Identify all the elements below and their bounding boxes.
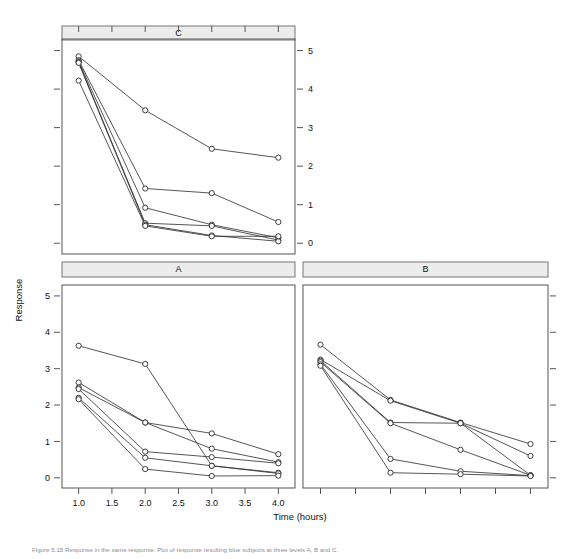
- data-point-b-4-1: [388, 421, 393, 426]
- data-point-b-6-3: [528, 473, 533, 478]
- series-line-b-6: [321, 366, 531, 476]
- series-line-b-5: [321, 364, 531, 475]
- panel-b: B: [303, 262, 556, 494]
- x-tick-label-3: 2.5: [172, 498, 185, 508]
- data-point-b-4-2: [458, 447, 463, 452]
- data-point-b-6-2: [458, 472, 463, 477]
- y-tick-label-c-1: 1: [308, 200, 313, 210]
- figure-caption: Figure 5.15 Response in the same respons…: [32, 545, 552, 554]
- x-tick-label-6: 4.0: [272, 498, 285, 508]
- y-tick-label-c-3: 3: [308, 123, 313, 133]
- x-axis-title: Time (hours): [273, 511, 327, 522]
- y-tick-label-a-4: 4: [45, 327, 50, 337]
- panel-a: A1.01.52.02.53.03.54.0012345: [45, 262, 295, 508]
- x-tick-label-2: 2.0: [139, 498, 152, 508]
- series-line-a-2: [79, 382, 279, 454]
- data-point-c-2-3: [276, 219, 281, 224]
- data-point-c-2-1: [143, 186, 148, 191]
- plot-canvas: C012345A1.01.52.02.53.03.54.0012345BResp…: [0, 0, 563, 559]
- data-point-b-6-0: [318, 363, 323, 368]
- data-point-b-2-1: [388, 398, 393, 403]
- series-line-a-1: [79, 346, 279, 473]
- y-tick-label-a-0: 0: [45, 473, 50, 483]
- data-point-c-6-0: [76, 78, 81, 83]
- data-point-a-3-1: [143, 420, 148, 425]
- y-tick-label-c-4: 4: [308, 84, 313, 94]
- data-point-a-1-1: [143, 361, 148, 366]
- series-line-c-5: [79, 63, 279, 241]
- strip-label-a: A: [175, 264, 181, 274]
- data-point-c-6-2: [209, 234, 214, 239]
- series-line-b-1: [321, 345, 531, 444]
- y-tick-label-c-0: 0: [308, 238, 313, 248]
- series-line-c-1: [79, 56, 279, 157]
- series-line-c-2: [79, 60, 279, 222]
- data-point-b-2-3: [528, 453, 533, 458]
- series-line-c-4: [79, 62, 279, 240]
- data-point-c-6-1: [143, 223, 148, 228]
- y-tick-label-a-1: 1: [45, 437, 50, 447]
- data-point-c-5-3: [276, 239, 281, 244]
- data-point-c-2-2: [209, 191, 214, 196]
- data-point-b-1-3: [528, 441, 533, 446]
- data-point-a-6-3: [276, 473, 281, 478]
- data-point-c-3-1: [143, 205, 148, 210]
- data-point-b-3-2: [458, 421, 463, 426]
- y-tick-label-c-5: 5: [308, 46, 313, 56]
- series-line-a-6: [79, 399, 279, 476]
- data-point-c-5-0: [76, 60, 81, 65]
- series-line-b-4: [321, 362, 531, 475]
- panel-c: C012345: [54, 26, 313, 254]
- data-point-a-4-1: [143, 449, 148, 454]
- y-tick-label-a-3: 3: [45, 364, 50, 374]
- data-point-c-6-3: [276, 234, 281, 239]
- panel-frame-a: [62, 285, 295, 488]
- data-point-a-6-2: [209, 473, 214, 478]
- data-point-b-1-0: [318, 342, 323, 347]
- series-line-c-6: [79, 81, 279, 237]
- x-tick-label-1: 1.5: [106, 498, 119, 508]
- x-tick-label-0: 1.0: [72, 498, 85, 508]
- data-point-c-1-3: [276, 155, 281, 160]
- series-line-b-2: [321, 360, 531, 456]
- data-point-a-2-2: [209, 431, 214, 436]
- strip-label-b: B: [422, 264, 428, 274]
- data-point-a-1-0: [76, 343, 81, 348]
- series-line-c-3: [79, 61, 279, 237]
- data-point-a-6-1: [143, 466, 148, 471]
- data-point-c-4-2: [209, 223, 214, 228]
- data-point-b-6-1: [388, 470, 393, 475]
- y-axis-title: Response: [13, 279, 24, 322]
- data-point-a-5-2: [209, 463, 214, 468]
- data-point-b-5-1: [388, 456, 393, 461]
- panel-frame-b: [303, 285, 548, 488]
- data-point-a-4-0: [76, 386, 81, 391]
- y-tick-label-a-5: 5: [45, 291, 50, 301]
- y-tick-label-a-2: 2: [45, 400, 50, 410]
- x-tick-label-4: 3.0: [206, 498, 219, 508]
- data-point-c-1-1: [143, 108, 148, 113]
- trellis-figure: C012345A1.01.52.02.53.03.54.0012345BResp…: [0, 0, 563, 559]
- data-point-a-6-0: [76, 397, 81, 402]
- data-point-a-4-2: [209, 454, 214, 459]
- data-point-a-2-0: [76, 380, 81, 385]
- data-point-a-5-1: [143, 455, 148, 460]
- data-point-a-3-2: [209, 446, 214, 451]
- y-tick-label-c-2: 2: [308, 161, 313, 171]
- data-point-a-2-3: [276, 452, 281, 457]
- data-point-a-4-3: [276, 461, 281, 466]
- data-point-c-1-2: [209, 146, 214, 151]
- x-tick-label-5: 3.5: [239, 498, 252, 508]
